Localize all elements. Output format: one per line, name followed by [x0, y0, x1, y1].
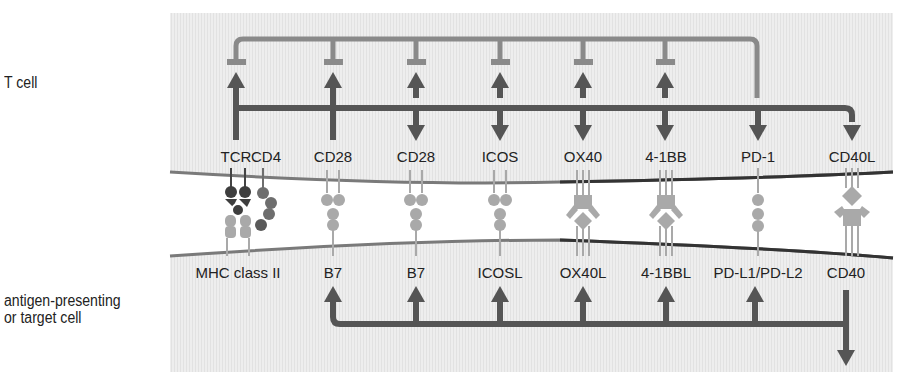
inhibit-bar-icon [574, 59, 593, 65]
label-pd-1: PD-1 [741, 148, 775, 165]
label-cd4: CD4 [251, 148, 281, 165]
inhibit-bar-icon [227, 59, 246, 65]
label-icos: ICOS [482, 148, 519, 165]
label-ox40l: OX40L [560, 264, 607, 281]
label-pd-l1-pd-l2: PD-L1/PD-L2 [713, 264, 802, 281]
inhibit-bar-icon [324, 59, 343, 65]
label-b7-b: B7 [407, 264, 425, 281]
label-cd40: CD40 [827, 264, 865, 281]
label-cd28-b: CD28 [397, 148, 435, 165]
label-icosl: ICOSL [477, 264, 522, 281]
costimulation-diagram: TCR CD4 CD28 CD28 ICOS OX40 4-1BB PD-1 C… [0, 0, 923, 389]
label-cd40l: CD40L [829, 148, 876, 165]
inhibit-bar-icon [656, 59, 675, 65]
label-cd28-a: CD28 [314, 148, 352, 165]
label-4-1bb: 4-1BB [645, 148, 687, 165]
inhibit-bar-icon [407, 59, 426, 65]
label-ox40: OX40 [564, 148, 602, 165]
label-b7-a: B7 [324, 264, 342, 281]
inhibit-bar-icon [491, 59, 510, 65]
label-tcr: TCR [221, 148, 252, 165]
label-mhc-class-ii: MHC class II [195, 264, 280, 281]
label-4-1bbl: 4-1BBL [641, 264, 691, 281]
